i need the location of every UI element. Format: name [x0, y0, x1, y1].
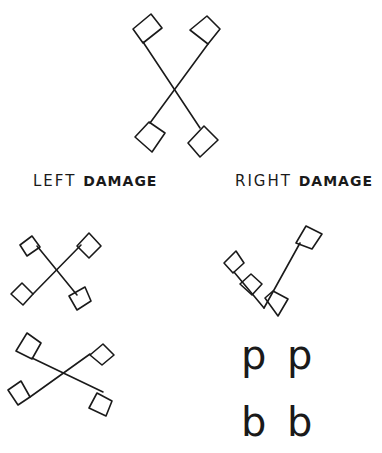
left-label-word2: DAMAGE: [83, 173, 157, 189]
flag-top-right: [296, 226, 322, 249]
right-damage-figure: [224, 226, 322, 316]
left-damage-figure-2: [8, 333, 114, 416]
stroke-a: [32, 358, 103, 392]
letter-b-left: b: [241, 402, 266, 442]
flag-bottom: [265, 291, 288, 316]
stroke-b: [150, 44, 208, 123]
diagram-canvas: [0, 0, 382, 453]
flag-top-left: [133, 14, 162, 43]
letter-p-right: p: [287, 335, 312, 375]
left-damage-label: LEFT DAMAGE: [33, 172, 157, 190]
left-label-word1: LEFT: [33, 172, 76, 190]
stroke-b: [33, 245, 81, 294]
flag-upper-left: [224, 251, 244, 273]
stroke-a: [234, 272, 264, 308]
stroke-b: [264, 243, 300, 308]
flag-bottom-left: [11, 283, 33, 305]
flag-bottom-left: [8, 381, 30, 405]
stroke-b: [30, 354, 90, 397]
letter-b-right: b: [287, 402, 312, 442]
flag-top-right: [190, 16, 220, 44]
flag-top-left: [16, 333, 41, 359]
stroke-a: [143, 42, 200, 128]
flag-bottom-right: [89, 393, 112, 416]
right-label-word1: RIGHT: [235, 172, 292, 190]
left-damage-figure-1: [11, 233, 101, 310]
letter-p-left: p: [241, 335, 266, 375]
right-damage-label: RIGHT DAMAGE: [235, 172, 373, 190]
flag-bottom-left: [135, 122, 165, 152]
flag-top-right: [90, 344, 114, 365]
right-label-word2: DAMAGE: [299, 173, 373, 189]
flag-bottom-right: [188, 126, 218, 157]
intact-figure: [133, 14, 220, 157]
